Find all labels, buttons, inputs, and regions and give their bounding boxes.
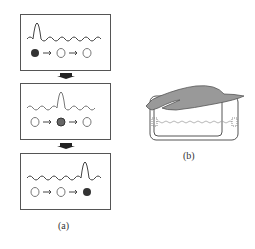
panel-b-label: (b)	[183, 150, 195, 161]
frame-3	[20, 153, 111, 210]
wave-peak-left-icon	[21, 15, 112, 72]
frame-1	[20, 14, 111, 71]
down-arrow-icon	[57, 73, 75, 79]
wave-peak-center-icon	[21, 84, 112, 141]
panel-b-diagram	[140, 80, 255, 150]
panel-a-label: (a)	[58, 220, 69, 231]
wave-peak-right-icon	[21, 154, 112, 211]
frame-2	[20, 83, 111, 140]
down-arrow-icon	[57, 143, 75, 149]
shaded-hand-icon	[146, 86, 244, 110]
